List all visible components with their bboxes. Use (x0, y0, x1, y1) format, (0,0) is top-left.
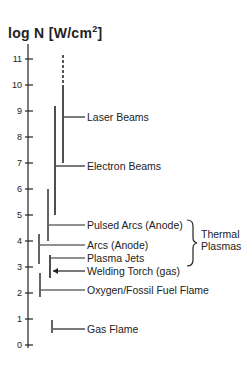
y-ticks (25, 59, 33, 345)
label-plasmas: Plasmas (201, 240, 241, 252)
y-tick-label: 9 (8, 106, 22, 116)
arrow-icon (53, 268, 58, 274)
y-tick-label: 6 (8, 184, 22, 194)
y-tick-label: 11 (8, 54, 22, 64)
y-tick-label: 5 (8, 210, 22, 220)
y-tick-label: 2 (8, 288, 22, 298)
y-tick-label: 7 (8, 158, 22, 168)
label-electron-beams: Electron Beams (87, 160, 161, 172)
label-thermal: Thermal (201, 228, 240, 240)
y-tick-label: 0 (8, 340, 22, 350)
label-welding-torch: Welding Torch (gas) (87, 265, 180, 277)
label-oxygen-flame: Oxygen/Fossil Fuel Flame (87, 284, 209, 296)
label-laser-beams: Laser Beams (87, 111, 149, 123)
label-plasma-jets: Plasma Jets (87, 252, 144, 264)
chart-plot (0, 0, 250, 369)
y-tick-label: 10 (8, 80, 22, 90)
y-tick-label: 1 (8, 314, 22, 324)
label-pulsed-arcs: Pulsed Arcs (Anode) (87, 219, 183, 231)
y-tick-label: 8 (8, 132, 22, 142)
y-tick-label: 4 (8, 236, 22, 246)
label-gas-flame: Gas Flame (87, 323, 138, 335)
label-arcs: Arcs (Anode) (87, 239, 148, 251)
y-tick-label: 3 (8, 262, 22, 272)
